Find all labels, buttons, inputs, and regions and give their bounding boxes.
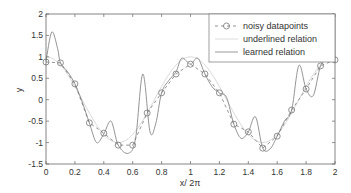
legend: noisy datapoints underlined relation lea… bbox=[209, 14, 335, 62]
y-axis-label: y bbox=[14, 87, 24, 92]
y-tick-label: -1.5 bbox=[28, 159, 43, 169]
y-tick-label: 1 bbox=[38, 52, 43, 62]
x-tick-label: 0.2 bbox=[69, 167, 81, 177]
x-tick-label: 1.2 bbox=[213, 167, 225, 177]
x-tick-label: 0.6 bbox=[127, 167, 139, 177]
legend-label: noisy datapoints bbox=[243, 21, 309, 31]
y-tick-label: 0 bbox=[38, 95, 43, 105]
x-tick-label: 2 bbox=[333, 167, 338, 177]
y-tick-label: 2 bbox=[38, 9, 43, 19]
y-tick-label: -1 bbox=[35, 138, 43, 148]
x-axis-label: x/ 2π bbox=[180, 178, 201, 188]
y-tick-label: 1.5 bbox=[31, 30, 43, 40]
x-tick-label: 0.8 bbox=[156, 167, 168, 177]
x-tick-label: 1.8 bbox=[300, 167, 312, 177]
x-tick-label: 1 bbox=[188, 167, 193, 177]
y-tick-label: 0.5 bbox=[31, 73, 43, 83]
x-tick-label: 1.4 bbox=[242, 167, 254, 177]
x-tick-label: 0.4 bbox=[98, 167, 110, 177]
series-noisy-datapoints bbox=[46, 60, 335, 148]
legend-label: learned relation bbox=[243, 47, 305, 57]
y-tick-label: -0.5 bbox=[28, 116, 43, 126]
x-tick-label: 1.6 bbox=[271, 167, 283, 177]
legend-label: underlined relation bbox=[243, 34, 317, 44]
chart: 00.20.40.60.811.21.41.61.82 21.510.50-0.… bbox=[0, 0, 351, 193]
series-underlined-relation bbox=[46, 57, 335, 143]
x-tick-label: 0 bbox=[44, 167, 49, 177]
